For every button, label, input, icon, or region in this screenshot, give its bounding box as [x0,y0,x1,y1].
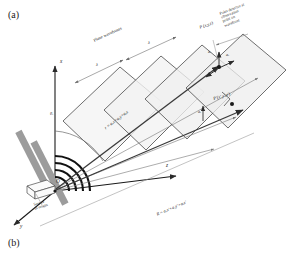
origin-marker [53,189,56,192]
figure-container: (a) (b) x y z O θi Plane wavefronts λ λ … [0,0,292,260]
origin-label: O [56,179,60,184]
unit-vector-az-label: az [198,110,201,115]
panel-b-label: (b) [8,238,20,249]
diagram-canvas [0,0,292,260]
point-P-marker [217,65,221,69]
axis-label-x: x [60,59,62,64]
axis-label-y: y [20,224,22,229]
unit-vector-ax-label: ax [208,50,211,55]
wavelength-label-1: λ [96,63,98,68]
axis-z [55,176,176,191]
wavelength-label-2: λ [148,41,150,46]
point-Pprime-marker [230,102,234,106]
axis-label-z: z [166,163,168,168]
source-box [27,180,55,199]
unit-vector-ay-label: ay [226,53,229,58]
panel-a-label: (a) [8,10,19,21]
theta-label: θi [50,112,53,117]
wavelength-marker-2 [126,37,176,60]
